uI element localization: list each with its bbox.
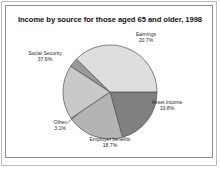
pie-label-employer-benefits-value: 18.7% <box>80 142 140 148</box>
pie-label-other-name: Other <box>54 119 67 125</box>
pie-slices <box>63 45 157 139</box>
pie-label-asset-income-name: Asset income <box>152 99 183 105</box>
pie-label-employer-benefits: Employer benefits 18.7% <box>80 136 140 148</box>
pie-label-social-security-name: Social Security <box>28 50 62 56</box>
pie-label-asset-income: Asset income 19.8% <box>142 99 192 111</box>
pie-label-asset-income-value: 19.8% <box>142 105 192 111</box>
pie-label-other: Other 3.1% <box>45 119 75 131</box>
pie-label-social-security: Social Security 37.6% <box>19 50 71 62</box>
figure-inner-border: Income by source for those aged 65 and o… <box>5 5 213 158</box>
chart-figure: Income by source for those aged 65 and o… <box>0 0 221 170</box>
pie-label-employer-benefits-name: Employer benefits <box>90 136 131 142</box>
pie-label-earnings: Earnings 20.7% <box>122 31 170 43</box>
pie-label-social-security-value: 37.6% <box>19 56 71 62</box>
pie-label-earnings-name: Earnings <box>136 31 156 37</box>
pie-label-earnings-value: 20.7% <box>122 37 170 43</box>
pie-label-other-value: 3.1% <box>45 125 75 131</box>
